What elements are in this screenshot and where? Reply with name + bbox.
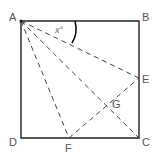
- label-a: A: [9, 11, 17, 23]
- label-g: G: [112, 98, 121, 110]
- label-f: F: [65, 142, 72, 154]
- line-fe: [69, 78, 139, 138]
- diagonal-ac: [21, 21, 139, 138]
- line-ae: [21, 21, 139, 78]
- label-c: C: [142, 136, 150, 148]
- line-af: [21, 21, 69, 138]
- label-d: D: [9, 136, 17, 148]
- angle-arc: [72, 21, 76, 43]
- label-b: B: [142, 11, 149, 23]
- point-a-dot: [19, 19, 22, 22]
- angle-label: x°: [54, 25, 64, 35]
- label-e: E: [142, 73, 149, 85]
- square-diagram: A B C D E F G x°: [0, 0, 159, 155]
